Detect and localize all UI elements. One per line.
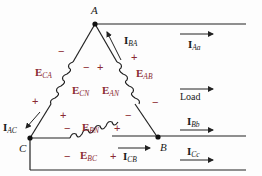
- plus-sign: +: [60, 110, 66, 121]
- voltage-eca-label: ECA: [35, 67, 52, 80]
- minus-sign: −: [64, 123, 70, 134]
- circuit-wires: [0, 0, 262, 176]
- current-icb-label: ICB: [123, 151, 137, 164]
- current-iac-label: IAC: [3, 122, 17, 135]
- voltage-eab-label: EAB: [136, 68, 153, 81]
- plus-sign: +: [131, 52, 137, 63]
- minus-sign: −: [83, 62, 89, 73]
- plus-sign: +: [110, 151, 116, 162]
- node-b-label: B: [160, 142, 167, 153]
- node-a-label: A: [91, 5, 98, 16]
- voltage-ecn-label: ECN: [72, 85, 89, 98]
- plus-sign: +: [114, 123, 120, 134]
- voltage-ebc-label: EBC: [80, 150, 97, 163]
- minus-sign: −: [58, 46, 64, 57]
- plus-sign: +: [32, 96, 38, 107]
- current-ibb-label: IBb: [187, 116, 200, 129]
- minus-sign: −: [125, 110, 131, 121]
- plus-sign: +: [97, 62, 103, 73]
- current-iba-label: IBA: [124, 35, 137, 48]
- minus-sign: −: [152, 97, 158, 108]
- current-icc-label: ICc: [187, 146, 200, 159]
- minus-sign: −: [64, 151, 70, 162]
- voltage-ean-label: EAN: [102, 85, 119, 98]
- load-label: Load: [180, 92, 201, 102]
- current-iaa-label: IAa: [188, 39, 201, 52]
- node-c-label: C: [19, 143, 26, 154]
- voltage-ebn-label: EBN: [82, 122, 99, 135]
- delta-generator-diagram: A C B ECA ECN EAN EAB EBN EBC IBA IAa Lo…: [0, 0, 262, 176]
